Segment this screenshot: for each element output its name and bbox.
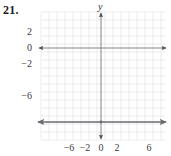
y-tick-label-2: 2 [12,27,32,37]
x-tick-label-2: 2 [111,143,123,153]
x-tick-label-0: 0 [95,143,107,153]
x-tick-label-neg2: −2 [74,143,96,153]
y-tick-label-neg6: −6 [10,91,32,101]
graph-figure: 21. [0,0,171,156]
grid-lines [41,12,165,140]
y-tick-label-0: 0 [12,43,32,53]
coordinate-plane [0,0,171,156]
x-tick-label-6: 6 [143,143,155,153]
y-axis-label: y [98,2,102,12]
y-tick-label-neg2: −2 [10,59,32,69]
intersection-point [100,121,103,124]
